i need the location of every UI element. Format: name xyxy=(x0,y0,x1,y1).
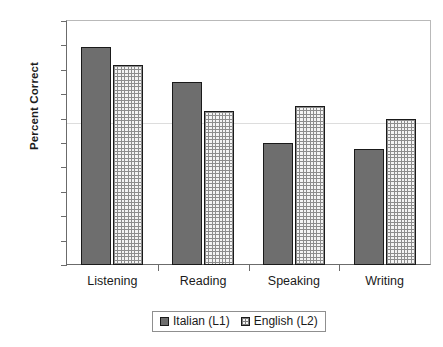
x-axis-label-listening: Listening xyxy=(67,274,158,288)
x-axis-label-writing: Writing xyxy=(339,274,430,288)
bar-speaking-series-1 xyxy=(295,106,325,265)
bar-listening-series-0 xyxy=(81,47,111,265)
x-tick-mark xyxy=(158,265,159,271)
bar-chart: Percent Correct 0102030405060708090100 L… xyxy=(0,0,443,347)
legend-label: English (L2) xyxy=(254,314,318,328)
legend-label: Italian (L1) xyxy=(173,314,230,328)
bar-writing-series-0 xyxy=(354,149,384,265)
bar-reading-series-1 xyxy=(204,111,234,265)
legend-swatch-icon xyxy=(160,317,169,326)
bar-listening-series-1 xyxy=(113,65,143,265)
legend-item-english: English (L2) xyxy=(241,314,318,328)
y-tick-mark xyxy=(61,265,67,266)
x-axis-label-reading: Reading xyxy=(158,274,249,288)
legend-swatch-icon xyxy=(241,317,250,326)
chart-legend: Italian (L1)English (L2) xyxy=(152,311,326,332)
x-tick-mark xyxy=(249,265,250,271)
legend-item-italian: Italian (L1) xyxy=(160,314,230,328)
x-axis-label-speaking: Speaking xyxy=(249,274,340,288)
bar-reading-series-0 xyxy=(172,82,202,265)
bars-layer xyxy=(67,21,430,265)
x-tick-mark xyxy=(339,265,340,271)
bar-speaking-series-0 xyxy=(263,143,293,265)
bar-writing-series-1 xyxy=(386,119,416,265)
